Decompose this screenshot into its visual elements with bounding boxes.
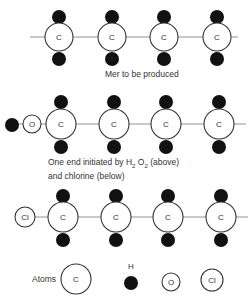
- svg-text:C: C: [216, 120, 222, 129]
- svg-text:C: C: [73, 275, 79, 284]
- hydrogen-end-atom: [5, 118, 19, 132]
- row-initiated: O C C C C: [5, 95, 246, 154]
- legend-title: Atoms: [32, 273, 56, 286]
- carbon-atom-2: C: [99, 95, 129, 154]
- oxygen-end-atom: O: [23, 115, 41, 133]
- svg-text:O: O: [168, 278, 174, 287]
- caption-text: One end initiated by H: [48, 157, 132, 167]
- row-chlorine: Cl C C C C: [15, 189, 248, 247]
- carbon-atom-3: C: [150, 10, 178, 66]
- carbon-atom-1: C: [46, 95, 76, 154]
- carbon-atom-4: C: [206, 189, 236, 247]
- carbon-atom-2: C: [101, 189, 131, 247]
- polymer-diagram: C C C C O C: [0, 0, 250, 296]
- svg-text:C: C: [161, 33, 167, 42]
- caption-text: (above): [148, 157, 179, 167]
- legend-oxygen: O: [162, 273, 180, 291]
- svg-text:Cl: Cl: [208, 276, 216, 285]
- svg-text:C: C: [165, 213, 171, 222]
- legend-hydrogen: H: [124, 262, 138, 290]
- svg-text:C: C: [113, 213, 119, 222]
- svg-text:Cl: Cl: [21, 213, 29, 222]
- svg-text:C: C: [56, 33, 62, 42]
- svg-text:C: C: [60, 213, 66, 222]
- svg-text:C: C: [111, 120, 117, 129]
- svg-text:C: C: [163, 120, 169, 129]
- svg-text:H: H: [128, 262, 134, 271]
- carbon-atom-3: C: [153, 189, 183, 247]
- atoms-legend: C H O Cl: [61, 262, 223, 294]
- caption-mer: Mer to be produced: [105, 68, 179, 81]
- row-mer: C C C C: [30, 10, 238, 66]
- svg-text:C: C: [109, 33, 115, 42]
- carbon-atom-1: C: [48, 189, 78, 247]
- legend-chlorine: Cl: [201, 269, 223, 291]
- svg-text:C: C: [58, 120, 64, 129]
- svg-text:C: C: [218, 213, 224, 222]
- carbon-atom-3: C: [151, 95, 181, 154]
- legend-carbon: C: [61, 264, 91, 294]
- chlorine-end-atom: Cl: [15, 207, 35, 227]
- carbon-atom-4: C: [204, 95, 234, 154]
- carbon-atom-2: C: [98, 10, 126, 66]
- svg-text:O: O: [29, 120, 35, 129]
- carbon-atom-1: C: [45, 10, 73, 66]
- caption-initiated-line2: and chlorine (below): [48, 170, 125, 183]
- carbon-atom-4: C: [203, 10, 231, 66]
- svg-text:C: C: [214, 33, 220, 42]
